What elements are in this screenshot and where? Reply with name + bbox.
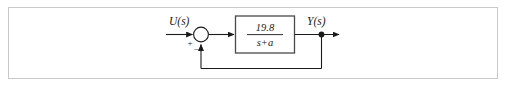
transfer-function-numerator: 19.8 xyxy=(256,22,275,33)
summing-junction-circle xyxy=(194,27,209,42)
summing-junction-positive-sign: + xyxy=(187,38,192,48)
output-label: Y(s) xyxy=(307,15,326,28)
input-label: U(s) xyxy=(169,15,190,28)
summing-junction-negative-sign: – xyxy=(193,43,199,53)
block-diagram: U(s) Y(s) 19.8 s+a + – xyxy=(0,0,508,89)
transfer-function-denominator: s+a xyxy=(257,37,273,48)
